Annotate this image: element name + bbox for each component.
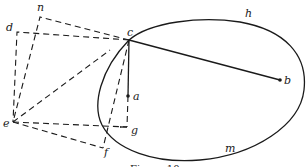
- point-b: [278, 78, 282, 82]
- line-ca: [128, 40, 129, 96]
- dashed-e-f: [13, 122, 103, 148]
- figure-caption: Figure 10: [130, 163, 180, 167]
- label-c: c: [127, 26, 133, 39]
- label-b: b: [284, 74, 291, 87]
- dashed-a-to-g: [127, 96, 128, 127]
- label-g: g: [131, 124, 138, 137]
- label-m: m: [225, 142, 235, 155]
- label-h: h: [245, 7, 252, 20]
- line-cb: [129, 40, 280, 80]
- label-a: a: [133, 90, 140, 103]
- dashed-e-to-tangent: [13, 50, 110, 122]
- dashed-e-g: [13, 122, 127, 127]
- label-f: f: [103, 146, 110, 159]
- label-d: d: [6, 21, 13, 34]
- label-n: n: [37, 1, 44, 14]
- geometry-diagram: n d c h b a e g f m Figure 10: [0, 0, 307, 167]
- label-e: e: [3, 117, 10, 130]
- point-a: [126, 94, 130, 98]
- dashed-n-path: [13, 17, 129, 122]
